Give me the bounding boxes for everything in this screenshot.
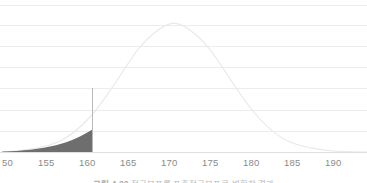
x-tick-label-2: 160 [79,156,95,169]
x-tick-label-3: 165 [120,156,136,169]
x-tick-label-0: 50 [2,156,13,169]
caption-inner: 그림 4-22 정규분포를 표준정규분포로 변환한 결과 [93,179,274,183]
caption-text: 정규분포를 표준정규분포로 변환한 결과 [131,179,274,183]
x-tick-label-8: 190 [325,156,341,169]
shaded-tail-region [2,130,92,152]
x-tick-label-5: 175 [202,156,218,169]
figure-caption: 그림 4-22 정규분포를 표준정규분포로 변환한 결과 [0,173,367,183]
tail-fill [2,130,92,152]
figure-container: 50 155 160 165 170 175 180 185 190 그림 4-… [0,0,367,183]
chart-plot-area [0,0,367,157]
chart-svg [0,0,367,157]
x-tick-label-4: 170 [161,156,177,169]
x-axis-tick-labels: 50 155 160 165 170 175 180 185 190 [0,156,367,170]
x-tick-label-7: 185 [284,156,300,169]
gridlines [0,5,367,131]
x-tick-label-6: 180 [243,156,259,169]
x-tick-label-1: 155 [38,156,54,169]
caption-label: 그림 4-22 [93,179,128,183]
